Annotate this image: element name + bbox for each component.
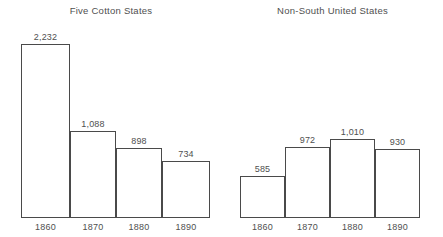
x-tick-1890-left: 1890: [162, 222, 210, 232]
value-label-1890-left: 734: [162, 149, 210, 159]
x-tick-1880-right: 1880: [330, 222, 375, 232]
bar-1870-left: [70, 131, 116, 218]
chart-panel-five-cotton-states: Five Cotton States 2,232 1,088 898 734 1…: [0, 0, 222, 237]
x-tick-1860-right: 1860: [240, 222, 285, 232]
x-tick-1890-right: 1890: [375, 222, 420, 232]
bar-1860-right: [240, 176, 285, 218]
x-tick-1880-left: 1880: [116, 222, 162, 232]
x-tick-1860-left: 1860: [21, 222, 70, 232]
bar-1880-left: [116, 148, 162, 218]
value-label-1880-left: 898: [116, 136, 162, 146]
x-tick-1870-right: 1870: [285, 222, 330, 232]
bar-1890-left: [162, 161, 210, 218]
chart-panel-non-south-united-states: Non-South United States 585 972 1,010 93…: [222, 0, 443, 237]
plot-area-right: 585 972 1,010 930 1860 1870 1880 1890: [222, 0, 443, 237]
value-label-1870-right: 972: [285, 135, 330, 145]
figure: Five Cotton States 2,232 1,088 898 734 1…: [0, 0, 443, 237]
value-label-1880-right: 1,010: [330, 127, 375, 137]
x-tick-1870-left: 1870: [70, 222, 116, 232]
value-label-1860-right: 585: [240, 164, 285, 174]
value-label-1870-left: 1,088: [70, 119, 116, 129]
bar-1860-left: [21, 44, 70, 218]
bar-1890-right: [375, 149, 420, 218]
bar-1880-right: [330, 139, 375, 218]
plot-area-left: 2,232 1,088 898 734 1860 1870 1880 1890: [0, 0, 222, 237]
value-label-1860-left: 2,232: [21, 32, 70, 42]
value-label-1890-right: 930: [375, 137, 420, 147]
bar-1870-right: [285, 147, 330, 218]
